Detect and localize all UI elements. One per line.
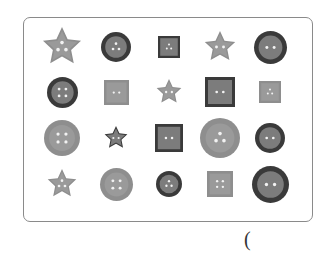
circle-button-icon: [100, 168, 133, 201]
circle-button-icon: [47, 77, 78, 108]
square-button-icon: [207, 171, 233, 197]
answer-parenthesis: (: [244, 229, 251, 249]
star-button-icon: [156, 79, 182, 105]
star-button-icon: [42, 27, 82, 67]
star-button-icon: [204, 31, 236, 63]
square-button-icon: [155, 124, 183, 152]
circle-button-icon: [44, 120, 80, 156]
square-button-icon: [104, 80, 129, 105]
circle-button-icon: [200, 118, 240, 158]
star-button-icon: [104, 126, 128, 150]
square-button-icon: [158, 36, 180, 58]
circle-button-icon: [255, 123, 285, 153]
circle-button-icon: [101, 32, 131, 62]
star-button-icon: [47, 169, 77, 199]
circle-button-icon: [254, 31, 287, 64]
circle-button-icon: [156, 171, 182, 197]
circle-button-icon: [252, 166, 289, 203]
square-button-icon: [205, 77, 235, 107]
square-button-icon: [259, 81, 281, 103]
